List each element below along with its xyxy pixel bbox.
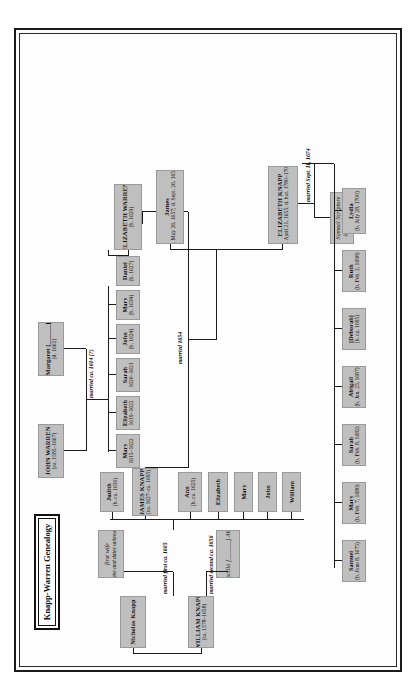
connector-line	[108, 374, 116, 375]
node-dates: (b. May 26, 1657; d. Sept. 26, 1657)	[170, 170, 176, 244]
connector-line	[133, 648, 134, 654]
node-child-abigail[interactable]: Abigail (b. Jan. 23, 1687)	[342, 366, 366, 408]
connector-line	[86, 349, 87, 451]
node-child-samuel[interactable]: Samuel (b. June 8, 1675)	[342, 540, 366, 582]
node-child-ruth[interactable]: Ruth (b. Feb. 2, 1698)	[342, 250, 366, 292]
node-dates: (b. ca. 1695)	[354, 315, 360, 343]
connector-line	[291, 512, 292, 520]
node-jw-child-john[interactable]: John (b. 1624)	[116, 324, 140, 354]
connector-line	[334, 328, 342, 329]
node-james-knapp[interactable]: JAMES KNAPP (ca. 1627–ca. 1695)	[132, 468, 158, 516]
node-name: Judith	[105, 483, 112, 501]
node-margaret[interactable]: Margaret [______] (d. 1662)	[38, 322, 64, 376]
node-dates: 1615–1622	[128, 438, 134, 463]
connector-line	[188, 212, 189, 468]
node-name: John	[121, 332, 128, 345]
connector-line	[314, 163, 334, 164]
node-name: Mary	[240, 484, 247, 499]
scanned-page: Knapp-Warren Genealogy Nicholas Knapp WI…	[0, 0, 419, 699]
node-name: Mary	[121, 297, 128, 312]
node-child-lydia[interactable]: Lydia (b. July 28, 1700)	[342, 188, 366, 234]
sibling-spine	[108, 298, 109, 452]
node-dates: (b. ca. 1625)	[190, 478, 196, 506]
connector-line	[133, 653, 201, 654]
node-jw-child-mary2[interactable]: Mary (b. 1634)	[116, 290, 140, 320]
node-child-sarah[interactable]: Sarah (b. Feb. 8, 1682)	[342, 424, 366, 466]
connector-line	[142, 212, 143, 224]
node-name: William	[288, 481, 295, 503]
connector-line	[108, 450, 116, 451]
node-jw-child-elizabeth[interactable]: Elizabeth 1619–1622	[116, 396, 140, 430]
node-dates: (b. 1627)	[128, 261, 134, 282]
node-name: ELIZABETH WARREN	[121, 184, 128, 250]
connector-line	[334, 502, 342, 503]
connector-line	[314, 164, 315, 204]
connector-line	[64, 348, 86, 349]
node-jw-child-daniel[interactable]: Daniel (b. 1627)	[116, 256, 140, 286]
sibling-spine	[216, 250, 217, 340]
marriage-label-first: married first ca. 1605	[162, 542, 168, 594]
node-elizabeth-knapp[interactable]: ELIZABETH KNAPP (b. April 21, 1655; d. b…	[268, 166, 298, 244]
node-dates: (name and dates unknown)	[111, 530, 117, 578]
node-jw-child-sarah[interactable]: Sarah 1620–1621	[116, 358, 140, 392]
node-jw-child-mary[interactable]: Mary 1615–1622	[116, 434, 140, 468]
node-name: Ruth	[347, 264, 354, 278]
sibling-spine	[110, 519, 304, 520]
connector-line	[218, 512, 219, 520]
connector-line	[86, 399, 108, 400]
node-wk-child-mary[interactable]: Mary	[234, 472, 253, 512]
node-child-mary[interactable]: Mary (b. Feb. 7, 1680)	[342, 482, 366, 524]
node-dates: (b. Jan. 23, 1687)	[354, 367, 360, 406]
node-name: [Deborah]	[347, 315, 354, 343]
node-john-warren[interactable]: JOHN WARREN (ca. 1585–1667)	[38, 424, 64, 478]
connector-line	[206, 572, 207, 596]
connector-line	[216, 249, 282, 250]
node-dates: (ca. 1578–1658)	[201, 604, 207, 641]
connector-line	[173, 572, 174, 596]
node-name: JAMES KNAPP	[138, 469, 145, 515]
connector-line	[145, 467, 189, 468]
genealogy-chart-canvas: Knapp-Warren Genealogy Nicholas Knapp WI…	[20, 36, 396, 664]
node-name: Margaret [______]	[44, 323, 51, 376]
node-name: first wife	[104, 543, 111, 565]
node-wk-child-william[interactable]: William	[282, 472, 301, 512]
chart-title-box: Knapp-Warren Genealogy	[34, 514, 60, 630]
node-wk-child-elizabeth[interactable]: Elizabeth	[208, 472, 228, 512]
marriage-label-second: married second ca. 1656	[208, 536, 214, 594]
connector-line	[145, 516, 146, 520]
node-child-deborah[interactable]: [Deborah] (b. ca. 1695)	[342, 308, 366, 350]
connector-line	[334, 386, 342, 387]
node-dates: (b. 1629)	[128, 207, 134, 228]
node-william-knapp[interactable]: WILLIAM KNAPP (ca. 1578–1658)	[188, 596, 214, 648]
node-name: John	[264, 485, 271, 498]
connector-line	[314, 217, 330, 218]
marriage-label-1674: married Sept. 11, 1674	[305, 148, 311, 202]
connector-line	[108, 255, 128, 256]
connector-line	[170, 244, 171, 250]
node-name: Elizabeth	[214, 479, 221, 505]
node-first-wife[interactable]: first wife (name and dates unknown)	[98, 530, 124, 578]
connector-line	[173, 520, 174, 530]
node-name: Daniel	[121, 262, 128, 280]
sibling-spine	[334, 164, 335, 568]
node-name: Sarah	[347, 437, 354, 453]
connector-line	[282, 244, 283, 250]
connector-line	[108, 286, 109, 298]
node-name: Ann	[183, 486, 190, 498]
node-wk-child-judith[interactable]: Judith (b. ca. 1630)	[100, 472, 124, 512]
connector-line	[190, 512, 191, 520]
genealogy-chart-rotated: Knapp-Warren Genealogy Nicholas Knapp WI…	[20, 36, 396, 664]
node-name: Nicholas Knapp	[129, 599, 136, 644]
node-wk-child-john[interactable]: John	[258, 472, 277, 512]
node-wk-child-ann[interactable]: Ann (b. ca. 1625)	[178, 472, 202, 512]
node-name: WILLIAM KNAPP	[194, 596, 201, 648]
node-dates: (b. July 28, 1700)	[354, 191, 360, 231]
node-nicholas-knapp[interactable]: Nicholas Knapp	[120, 596, 146, 648]
node-james-infant[interactable]: James (b. May 26, 1657; d. Sept. 26, 165…	[156, 170, 184, 244]
node-dates: (b. 1634)	[128, 295, 134, 316]
connector-line	[334, 270, 342, 271]
node-dates: (d. 1662)	[51, 339, 57, 360]
node-elizabeth-warren[interactable]: ELIZABETH WARREN (b. 1629)	[114, 184, 142, 250]
connector-line	[108, 304, 116, 305]
connector-line	[188, 339, 216, 340]
